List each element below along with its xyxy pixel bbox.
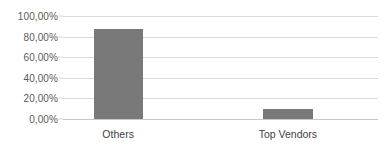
plot-area: [63, 16, 378, 119]
x-tick-label-top-vendors: Top Vendors: [259, 128, 317, 140]
gridline-baseline-0: [63, 119, 378, 120]
x-axis-labels: Others Top Vendors: [63, 128, 378, 148]
x-tick-label-others: Others: [102, 128, 134, 140]
y-axis-tick-marks: [0, 16, 63, 119]
bar-chart: 100,00% 80,00% 60,00% 40,00% 20,00% 0,00…: [0, 0, 391, 154]
bar-top-vendors[interactable]: [263, 109, 313, 119]
gridline-100: [63, 16, 378, 17]
bar-others[interactable]: [94, 29, 143, 119]
